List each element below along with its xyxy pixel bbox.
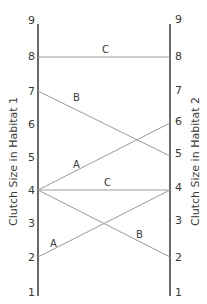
right-tick-5: 5 bbox=[175, 147, 182, 160]
right-tick-3: 3 bbox=[175, 214, 182, 227]
reaction-norm-diagram: C B A C B A 1 2 3 4 5 6 7 8 9 1 2 3 4 5 … bbox=[0, 0, 207, 304]
left-tick-3: 3 bbox=[28, 217, 35, 230]
right-axis-title: Clutch Size in Habitat 2 bbox=[189, 97, 202, 226]
left-tick-6: 6 bbox=[28, 118, 35, 131]
label-a-upper: A bbox=[73, 159, 80, 170]
right-tick-9: 9 bbox=[175, 13, 182, 26]
left-tick-4: 4 bbox=[28, 184, 35, 197]
left-tick-5: 5 bbox=[28, 151, 35, 164]
right-tick-1: 1 bbox=[175, 286, 182, 299]
right-tick-2: 2 bbox=[175, 251, 182, 264]
label-b-upper: B bbox=[73, 92, 80, 103]
left-tick-8: 8 bbox=[28, 50, 35, 63]
right-tick-4: 4 bbox=[175, 181, 182, 194]
right-tick-7: 7 bbox=[175, 84, 182, 97]
left-tick-7: 7 bbox=[28, 85, 35, 98]
left-tick-labels: 1 2 3 4 5 6 7 8 9 bbox=[28, 14, 35, 299]
left-axis-title: Clutch Size in Habitat 1 bbox=[7, 97, 20, 226]
left-tick-9: 9 bbox=[28, 14, 35, 27]
right-tick-6: 6 bbox=[175, 115, 182, 128]
left-tick-1: 1 bbox=[28, 286, 35, 299]
label-c-top: C bbox=[102, 44, 109, 55]
label-b-lower: B bbox=[136, 229, 143, 240]
right-tick-8: 8 bbox=[175, 50, 182, 63]
left-tick-2: 2 bbox=[28, 251, 35, 264]
connection-b-7-5 bbox=[38, 91, 170, 156]
right-tick-labels: 1 2 3 4 5 6 7 8 9 bbox=[175, 13, 182, 299]
label-a-lower: A bbox=[50, 238, 57, 249]
connections bbox=[38, 57, 170, 257]
label-c-middle: C bbox=[104, 177, 111, 188]
